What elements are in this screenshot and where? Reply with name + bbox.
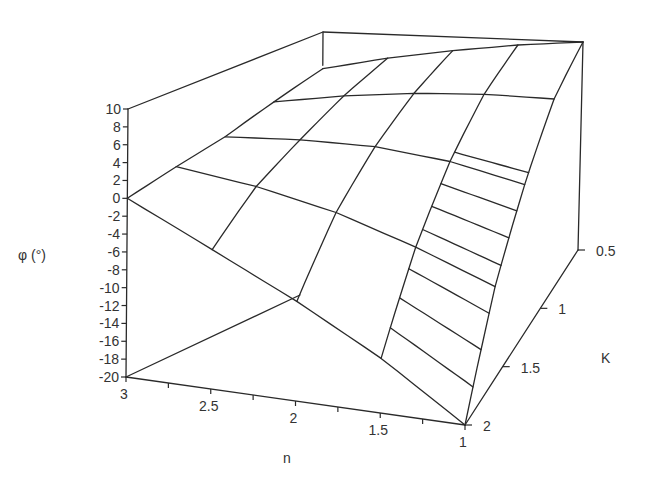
mesh-line-k-0.5 <box>323 42 583 69</box>
y-axis-label: K <box>601 350 611 366</box>
z-tick-label: 10 <box>105 101 121 117</box>
k-tick-label: 1 <box>558 301 566 317</box>
mesh-line-k-1.25 <box>225 137 525 185</box>
mesh-hatch-k-1.8 <box>400 298 481 350</box>
mesh-hatch-k-1.2 <box>455 152 529 173</box>
z-tick-label: -14 <box>99 315 119 331</box>
mesh-line-k-1.625 <box>176 167 495 287</box>
back-right-vertical <box>578 42 583 250</box>
k-tick-label: 1.5 <box>521 360 541 376</box>
axis-ticks: 1086420-2-4-6-8-10-12-14-16-18-2032.521.… <box>99 101 616 450</box>
z-tick-label: -4 <box>108 226 121 242</box>
n-tick-label: 2.5 <box>199 398 219 414</box>
z-tick-label: -2 <box>108 208 121 224</box>
z-tick-label: -8 <box>107 262 120 278</box>
surface-plot: 1086420-2-4-6-8-10-12-14-16-18-2032.521.… <box>0 0 647 484</box>
surface-mesh <box>127 42 583 425</box>
x-axis-label: n <box>283 450 291 466</box>
k-tick-label: 2 <box>483 418 491 434</box>
z-tick-label: -18 <box>99 351 119 367</box>
z-tick-label: -6 <box>107 244 120 260</box>
z-tick-label: -20 <box>99 369 119 385</box>
mesh-line-n-2.5 <box>212 58 388 250</box>
mesh-line-n-1.5 <box>381 45 518 358</box>
k-tick-label: 0.5 <box>596 243 616 259</box>
n-tick-label: 1.5 <box>369 422 389 438</box>
mesh-line-k-2 <box>127 198 465 425</box>
z-tick-label: -16 <box>99 333 119 349</box>
z-axis-line <box>126 109 128 377</box>
z-axis-label: φ (°) <box>18 247 46 263</box>
z-tick-label: 8 <box>113 119 121 135</box>
mesh-hatch-k-1.7 <box>409 269 489 314</box>
floor-diagonal-edge <box>126 295 300 377</box>
z-tick-label: -12 <box>99 298 119 314</box>
mesh-line-k-0.875 <box>274 93 554 102</box>
z-tick-label: -10 <box>99 280 119 296</box>
n-tick-label: 2 <box>290 410 298 426</box>
z-tick-label: 4 <box>113 155 121 171</box>
mesh-hatch-k-1.35 <box>441 184 517 211</box>
axes-box <box>126 32 583 425</box>
z-tick-label: 0 <box>113 190 121 206</box>
mesh-hatch-k-1.55 <box>423 230 501 266</box>
back-top-edge <box>128 32 583 109</box>
n-tick-label: 1 <box>459 434 467 450</box>
z-tick-label: 6 <box>113 137 121 153</box>
mesh-line-n-2 <box>297 51 453 302</box>
n-tick-label: 3 <box>120 386 128 402</box>
z-tick-label: 2 <box>113 172 121 188</box>
k-axis-line <box>465 250 578 425</box>
mesh-hatch-k-1.45 <box>432 206 509 238</box>
